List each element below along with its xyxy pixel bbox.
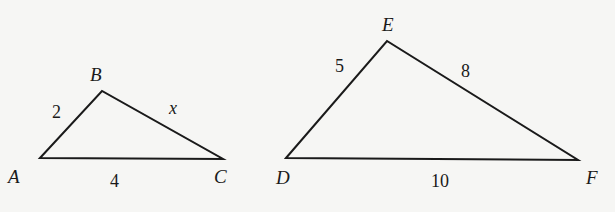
side-label-ab: 2 <box>52 102 61 122</box>
triangle-def-outline <box>286 41 578 160</box>
triangle-def: D E F 5 8 10 <box>275 14 598 191</box>
triangle-abc: A B C 2 x 4 <box>6 64 227 191</box>
side-label-df: 10 <box>431 171 449 191</box>
side-label-ef: 8 <box>461 61 470 81</box>
vertex-label-a: A <box>6 166 20 187</box>
triangle-abc-outline <box>40 91 223 159</box>
vertex-label-f: F <box>585 167 598 188</box>
side-label-bc: x <box>168 98 177 118</box>
vertex-label-b: B <box>90 64 102 85</box>
vertex-label-e: E <box>381 14 394 35</box>
side-label-ac: 4 <box>110 171 119 191</box>
vertex-label-c: C <box>214 166 227 187</box>
side-label-de: 5 <box>335 56 344 76</box>
vertex-label-d: D <box>275 167 290 188</box>
similar-triangles-diagram: A B C 2 x 4 D E F 5 8 10 <box>0 0 615 212</box>
